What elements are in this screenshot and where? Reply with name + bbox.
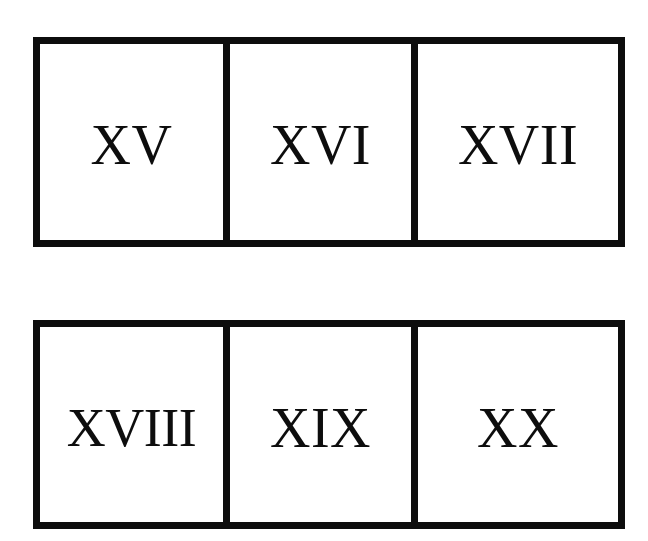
numeral-cell-xvi[interactable]: XVI: [230, 44, 418, 240]
numeral-row-bottom: XVIII XIX XX: [33, 320, 625, 529]
numeral-label: XVIII: [67, 401, 196, 455]
numeral-label: XV: [91, 117, 173, 173]
numeral-label: XIX: [270, 400, 371, 456]
numeral-label: XVII: [458, 117, 578, 173]
numeral-label: XVI: [270, 117, 371, 173]
numeral-cell-xvii[interactable]: XVII: [418, 44, 618, 240]
numeral-cell-xviii[interactable]: XVIII: [40, 327, 230, 522]
roman-numeral-worksheet: XV XVI XVII XVIII XIX XX: [0, 0, 648, 541]
numeral-row-top: XV XVI XVII: [33, 37, 625, 247]
numeral-label: XX: [477, 400, 559, 456]
numeral-cell-xix[interactable]: XIX: [230, 327, 418, 522]
numeral-cell-xx[interactable]: XX: [418, 327, 618, 522]
numeral-cell-xv[interactable]: XV: [40, 44, 230, 240]
